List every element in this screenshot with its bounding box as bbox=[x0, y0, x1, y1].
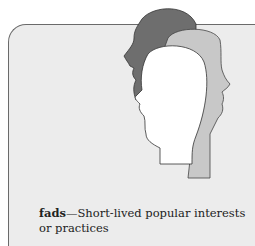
definition-dash: — bbox=[66, 206, 78, 220]
definition-text: fads—Short-lived popular interests or pr… bbox=[39, 206, 249, 236]
definition-term: fads bbox=[39, 206, 66, 220]
